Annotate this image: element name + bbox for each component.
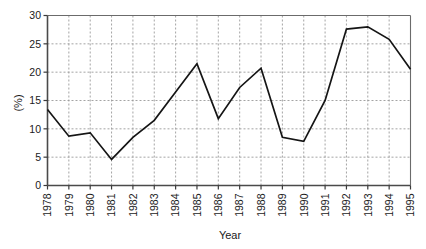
x-tick-label: 1992 (340, 193, 352, 217)
x-tick-label: 1987 (233, 193, 245, 217)
x-tick-label: 1993 (362, 193, 374, 217)
y-tick-label: 15 (29, 94, 41, 106)
x-tick-label: 1980 (84, 193, 96, 217)
y-tick-label: 5 (35, 151, 41, 163)
x-tick-label: 1983 (148, 193, 160, 217)
x-tick-label: 1988 (255, 193, 267, 217)
x-tick-label: 1991 (319, 193, 331, 217)
x-tick-label: 1990 (298, 193, 310, 217)
y-tick-label: 20 (29, 66, 41, 78)
x-tick-label: 1978 (41, 193, 53, 217)
y-tick-label: 25 (29, 38, 41, 50)
x-tick-label: 1994 (383, 193, 395, 217)
x-axis-title: Year (219, 229, 242, 241)
chart-figure: 051015202530 197819791980198119821983198… (0, 0, 426, 249)
x-tick-label: 1985 (191, 193, 203, 217)
line-chart: 051015202530 197819791980198119821983198… (0, 0, 426, 249)
y-tick-label: 10 (29, 123, 41, 135)
x-tick-label: 1995 (404, 193, 416, 217)
x-tick-label: 1984 (169, 193, 181, 217)
x-tick-label: 1982 (127, 193, 139, 217)
y-tick-label: 30 (29, 9, 41, 21)
x-tick-label: 1986 (212, 193, 224, 217)
y-axis-title: (%) (12, 94, 24, 111)
x-tick-label: 1981 (105, 193, 117, 217)
x-tick-label: 1979 (63, 193, 75, 217)
y-tick-label: 0 (35, 179, 41, 191)
x-tick-label: 1989 (276, 193, 288, 217)
